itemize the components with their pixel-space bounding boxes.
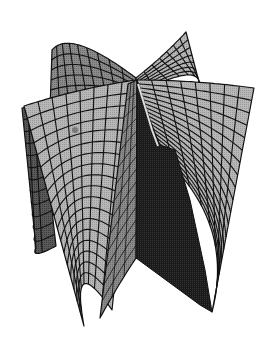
surface-plot xyxy=(0,0,279,360)
surface-mesh xyxy=(22,32,254,326)
surface-spot xyxy=(72,127,78,133)
